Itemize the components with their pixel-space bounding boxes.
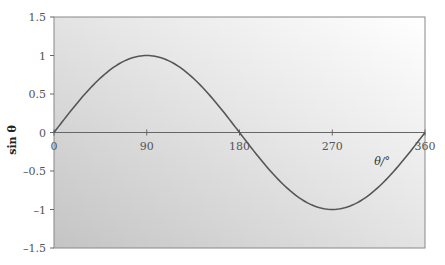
x-tick-label: 90 <box>140 140 154 153</box>
y-axis-title: sin θ <box>6 125 19 155</box>
x-axis-title: θ/° <box>374 155 390 168</box>
y-tick-label: 1.5 <box>29 11 47 24</box>
y-axis-title-text: sin θ <box>6 125 19 155</box>
y-tick-label: 0.5 <box>29 88 47 101</box>
sine-chart: 1.510.50–0.5–1–1.5090180270360 sin θ θ/° <box>0 0 445 265</box>
y-tick-label: –0.5 <box>23 165 46 178</box>
x-tick-label: 0 <box>51 140 58 153</box>
y-tick-label: 1 <box>39 50 46 63</box>
y-tick-label: –1 <box>34 204 47 217</box>
y-tick-label: –1.5 <box>23 242 46 255</box>
x-tick-label: 270 <box>322 140 343 153</box>
y-tick-label: 0 <box>39 127 46 140</box>
